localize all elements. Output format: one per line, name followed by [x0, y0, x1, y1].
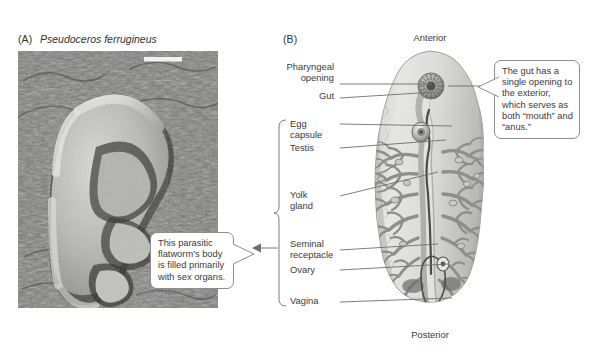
label-egg-capsule: Egg capsule	[290, 119, 350, 140]
panel-b-label: (B)	[283, 33, 297, 45]
orientation-anterior-label: Anterior	[390, 33, 470, 44]
panel-a-callout: This parasitic flatworm's body is filled…	[150, 232, 234, 289]
label-vagina: Vagina	[290, 296, 350, 307]
label-testis: Testis	[290, 143, 350, 154]
panel-b-callout-tail	[476, 76, 500, 98]
panel-b-callout: The gut has a single opening to the exte…	[494, 60, 580, 139]
brace-arrow	[252, 240, 278, 256]
panel-a-species-name: Pseudoceros ferrugineus	[40, 33, 157, 45]
label-pharyngeal-opening: Pharyngeal opening	[278, 62, 334, 83]
label-seminal-receptacle: Seminal receptacle	[290, 239, 352, 260]
panel-a-label: (A)	[18, 33, 32, 45]
label-gut: Gut	[278, 91, 334, 102]
label-ovary: Ovary	[290, 265, 350, 276]
organ-group-brace	[274, 118, 288, 308]
label-yolk-gland: Yolk gland	[290, 190, 350, 211]
